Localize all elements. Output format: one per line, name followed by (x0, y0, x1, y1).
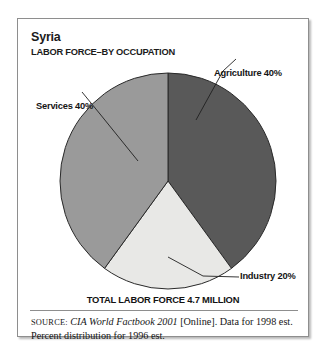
total-labor-force-caption: TOTAL LABOR FORCE 4.7 MILLION (18, 294, 308, 305)
source-note: SOURCE: CIA World Factbook 2001 [Online]… (31, 315, 299, 343)
source-work-title: CIA World Factbook 2001 (70, 316, 177, 327)
pie-label-industry: Industry 20% (240, 271, 295, 281)
pie-label-services: Services 40% (36, 101, 93, 111)
figure-frame: Syria LABOR FORCE–BY OCCUPATION Services… (17, 18, 309, 337)
pie-label-agriculture: Agriculture 40% (214, 68, 282, 78)
source-divider (30, 310, 298, 311)
source-label: SOURCE: (31, 318, 68, 327)
pie-chart (18, 19, 310, 338)
